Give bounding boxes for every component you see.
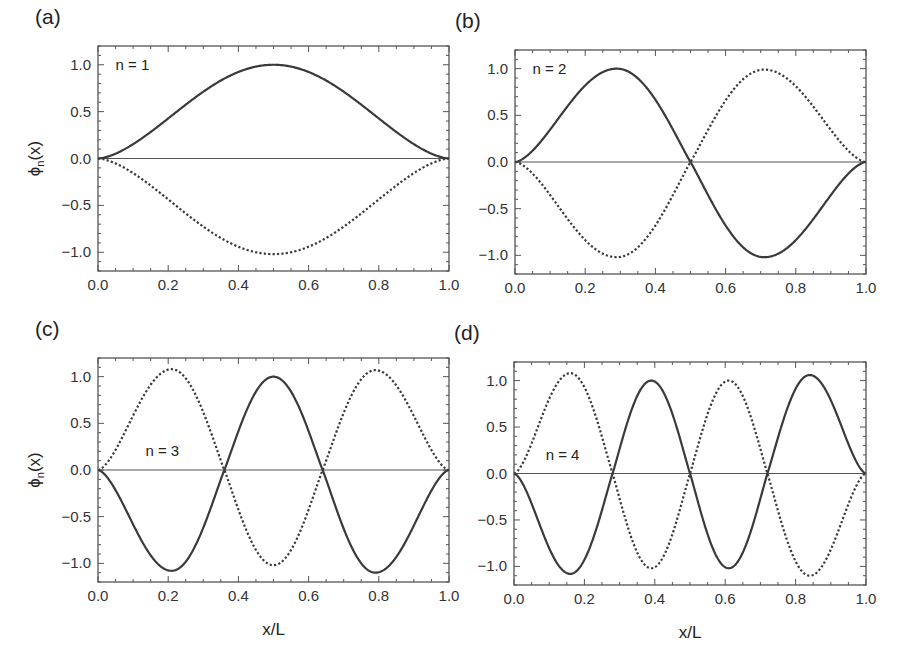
figure: (a)0.00.20.40.60.81.0−1.0−0.50.00.51.0n … <box>0 0 908 670</box>
x-tick-label: 0.8 <box>785 590 806 607</box>
y-tick-label: −1.0 <box>61 243 91 260</box>
y-tick-label: −1.0 <box>478 246 508 263</box>
panel-label: (a) <box>35 5 61 28</box>
x-tick-label: 0.2 <box>575 279 596 296</box>
y-tick-label: 0.5 <box>486 418 507 435</box>
x-axis-label: x/L <box>679 623 702 642</box>
x-tick-label: 0.2 <box>574 590 595 607</box>
panel-label: (d) <box>454 321 480 344</box>
y-tick-label: −1.0 <box>477 557 507 574</box>
panel-c: (c)0.00.20.40.60.81.0−1.0−0.50.00.51.0n … <box>25 317 459 639</box>
y-axis-label: ϕn(x) <box>25 452 46 487</box>
x-tick-label: 1.0 <box>856 590 877 607</box>
y-tick-label: 0.5 <box>70 414 91 431</box>
x-axis-label: x/L <box>262 620 285 639</box>
y-tick-label: 1.0 <box>70 56 91 73</box>
x-tick-label: 0.8 <box>368 276 389 293</box>
panel-label: (c) <box>35 317 60 340</box>
x-tick-label: 0.4 <box>644 590 665 607</box>
y-tick-label: 0.0 <box>70 461 91 478</box>
y-tick-label: 1.0 <box>70 368 91 385</box>
x-tick-label: 0.2 <box>158 587 179 604</box>
panel-b: (b)0.00.20.40.60.81.0−1.0−0.50.00.51.0n … <box>455 9 876 296</box>
x-tick-label: 0.4 <box>645 279 666 296</box>
x-tick-label: 0.6 <box>715 279 736 296</box>
x-tick-label: 0.2 <box>158 276 179 293</box>
x-tick-label: 0.8 <box>368 587 389 604</box>
y-tick-label: −0.5 <box>478 200 508 217</box>
y-tick-label: −1.0 <box>61 554 91 571</box>
y-tick-label: 0.0 <box>486 465 507 482</box>
curve-dotted <box>98 159 449 255</box>
y-tick-label: −0.5 <box>61 196 91 213</box>
mode-label: n = 3 <box>145 442 179 459</box>
x-tick-label: 0.8 <box>785 279 806 296</box>
curve-solid <box>514 375 866 574</box>
curve-solid <box>98 377 449 573</box>
y-tick-label: 0.5 <box>70 103 91 120</box>
panels: (a)0.00.20.40.60.81.0−1.0−0.50.00.51.0n … <box>25 5 876 642</box>
panel-label: (b) <box>455 9 481 32</box>
y-tick-label: −0.5 <box>477 511 507 528</box>
x-tick-label: 1.0 <box>439 276 460 293</box>
x-tick-label: 0.0 <box>504 590 525 607</box>
x-tick-label: 1.0 <box>856 279 877 296</box>
curve-solid <box>515 69 866 258</box>
x-tick-label: 0.0 <box>505 279 526 296</box>
curve-dotted <box>98 369 449 565</box>
x-tick-label: 0.4 <box>228 276 249 293</box>
y-tick-label: 1.0 <box>487 60 508 77</box>
mode-label: n = 4 <box>546 446 580 463</box>
x-tick-label: 0.0 <box>88 276 109 293</box>
panel-a: (a)0.00.20.40.60.81.0−1.0−0.50.00.51.0n … <box>25 5 459 293</box>
x-tick-label: 0.0 <box>88 587 109 604</box>
y-tick-label: 0.0 <box>487 153 508 170</box>
mode-label: n = 1 <box>116 56 150 73</box>
panel-d: (d)0.00.20.40.60.81.0−1.0−0.50.00.51.0n … <box>454 321 876 642</box>
y-axis-label: ϕn(x) <box>25 141 46 176</box>
mode-label: n = 2 <box>533 60 567 77</box>
x-tick-label: 0.6 <box>298 587 319 604</box>
x-tick-label: 1.0 <box>439 587 460 604</box>
curve-solid <box>98 65 449 159</box>
y-tick-label: 1.0 <box>486 372 507 389</box>
x-tick-label: 0.6 <box>298 276 319 293</box>
x-tick-label: 0.4 <box>228 587 249 604</box>
y-tick-label: 0.0 <box>70 150 91 167</box>
x-tick-label: 0.6 <box>715 590 736 607</box>
y-tick-label: −0.5 <box>61 508 91 525</box>
y-tick-label: 0.5 <box>487 106 508 123</box>
